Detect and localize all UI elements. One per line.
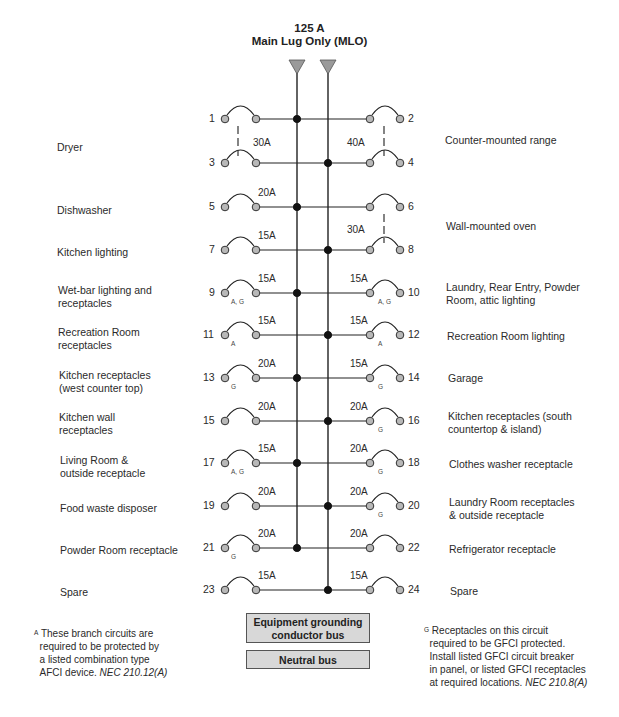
label-disposer: Food waste disposer xyxy=(60,502,157,515)
breaker-terminal-icon xyxy=(396,203,404,211)
circuit-number-24: 24 xyxy=(408,583,420,595)
breaker-terminal-icon xyxy=(396,417,404,425)
circuit-number-16: 16 xyxy=(408,414,420,426)
bus-junction-dot xyxy=(293,374,301,382)
circuit-number-9: 9 xyxy=(209,286,215,298)
breaker-rating-18: 20A xyxy=(350,443,368,454)
circuit-number-5: 5 xyxy=(209,200,215,212)
circuit-number-10: 10 xyxy=(408,286,420,298)
circuit-number-11: 11 xyxy=(203,328,214,340)
label-living-room: Living Room &outside receptacle xyxy=(60,454,145,480)
label-laundry-receptacles: Laundry Room receptacles& outside recept… xyxy=(449,496,574,522)
protection-tags-11: A xyxy=(231,340,235,347)
breaker-terminal-icon xyxy=(396,159,404,167)
label-powder-receptacle: Powder Room receptacle xyxy=(60,544,178,557)
circuit-number-3: 3 xyxy=(209,156,215,168)
protection-tags-12: A xyxy=(378,340,382,347)
neutral-bus: Neutral bus xyxy=(246,650,370,669)
breaker-terminal-icon xyxy=(221,331,229,339)
breaker-terminal-icon xyxy=(366,544,374,552)
breaker-rating-2: 40A xyxy=(347,137,365,148)
breaker-terminal-icon xyxy=(221,586,229,594)
bus-junction-dot xyxy=(293,289,301,297)
breaker-terminal-icon xyxy=(366,331,374,339)
bus-junction-dot xyxy=(293,459,301,467)
breaker-terminal-icon xyxy=(396,115,404,123)
breaker-terminal-icon xyxy=(396,544,404,552)
label-oven: Wall-mounted oven xyxy=(446,220,536,233)
breaker-terminal-icon xyxy=(221,544,229,552)
lug-a-icon xyxy=(289,60,305,74)
circuit-number-2: 2 xyxy=(408,112,414,124)
bus-junction-dot xyxy=(324,159,332,167)
bus-junction-dot xyxy=(293,115,301,123)
breaker-terminal-icon xyxy=(221,289,229,297)
circuit-number-19: 19 xyxy=(203,499,215,511)
breaker-rating-17: 15A xyxy=(258,443,276,454)
breaker-terminal-icon xyxy=(366,246,374,254)
breaker-terminal-icon xyxy=(221,459,229,467)
circuit-number-13: 13 xyxy=(203,371,215,383)
breaker-terminal-icon xyxy=(366,586,374,594)
protection-tags-16: G xyxy=(378,426,383,433)
breaker-rating-24: 15A xyxy=(350,570,368,581)
label-recroom-lighting: Recreation Room lighting xyxy=(447,330,565,343)
equipment-grounding-bus: Equipment groundingconductor bus xyxy=(246,613,370,643)
label-recroom-receptacles: Recreation Roomreceptacles xyxy=(58,326,140,352)
protection-tags-9: A, G xyxy=(231,298,244,305)
breaker-rating-19: 20A xyxy=(258,486,276,497)
breaker-terminal-icon xyxy=(252,502,260,510)
breaker-rating-21: 20A xyxy=(258,528,276,539)
breaker-rating-9: 15A xyxy=(258,273,276,284)
label-spare-left: Spare xyxy=(60,586,88,599)
protection-tags-13: G xyxy=(231,383,236,390)
protection-tags-10: A, G xyxy=(378,298,391,305)
protection-tags-20: G xyxy=(378,511,383,518)
breaker-terminal-icon xyxy=(221,159,229,167)
bus-wiring xyxy=(0,0,619,717)
circuit-number-6: 6 xyxy=(408,200,414,212)
breaker-terminal-icon xyxy=(252,331,260,339)
circuit-number-7: 7 xyxy=(209,243,215,255)
breaker-terminal-icon xyxy=(366,459,374,467)
breaker-terminal-icon xyxy=(221,203,229,211)
protection-tags-17: A, G xyxy=(231,468,244,475)
breaker-terminal-icon xyxy=(366,417,374,425)
breaker-terminal-icon xyxy=(366,289,374,297)
label-washer: Clothes washer receptacle xyxy=(449,458,573,471)
breaker-terminal-icon xyxy=(221,115,229,123)
circuit-number-8: 8 xyxy=(408,243,414,255)
circuit-number-18: 18 xyxy=(408,456,420,468)
breaker-rating-16: 20A xyxy=(350,401,368,412)
label-garage: Garage xyxy=(448,372,483,385)
breaker-rating-15: 20A xyxy=(258,401,276,412)
panel-schedule-diagram: 125 A Main Lug Only (MLO) Dryer Dishwash… xyxy=(0,0,619,717)
breaker-terminal-icon xyxy=(396,459,404,467)
breaker-terminal-icon xyxy=(366,115,374,123)
breaker-terminal-icon xyxy=(396,289,404,297)
circuit-number-1: 1 xyxy=(209,112,215,124)
breaker-terminal-icon xyxy=(221,502,229,510)
breaker-rating-23: 15A xyxy=(258,570,276,581)
breaker-terminal-icon xyxy=(221,417,229,425)
breaker-rating-20: 20A xyxy=(350,486,368,497)
breaker-terminal-icon xyxy=(221,246,229,254)
breaker-rating-5: 20A xyxy=(258,187,276,198)
lug-b-icon xyxy=(320,60,336,74)
label-kitchen-wall: Kitchen wallreceptacles xyxy=(59,411,115,437)
bus-junction-dot xyxy=(324,502,332,510)
gfci-footnote: G Receptacles on this circuit required t… xyxy=(424,624,587,689)
bus-junction-dot xyxy=(324,417,332,425)
breaker-rating-10: 15A xyxy=(350,273,368,284)
breaker-terminal-icon xyxy=(396,246,404,254)
circuit-number-21: 21 xyxy=(203,541,215,553)
breaker-terminal-icon xyxy=(366,203,374,211)
protection-tags-14: G xyxy=(378,383,383,390)
breaker-terminal-icon xyxy=(396,586,404,594)
breaker-terminal-icon xyxy=(396,502,404,510)
label-kitchen-lighting: Kitchen lighting xyxy=(57,246,128,259)
circuit-number-15: 15 xyxy=(203,414,215,426)
circuit-number-23: 23 xyxy=(203,583,215,595)
breaker-rating-1: 30A xyxy=(253,137,271,148)
breaker-terminal-icon xyxy=(252,417,260,425)
